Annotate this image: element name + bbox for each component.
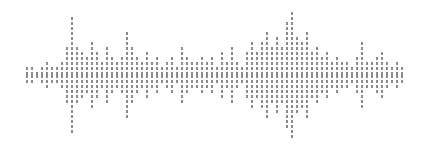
waveform-visualizer: Audio Waveform Visualization — [0, 0, 425, 149]
waveform-canvas — [0, 0, 425, 149]
